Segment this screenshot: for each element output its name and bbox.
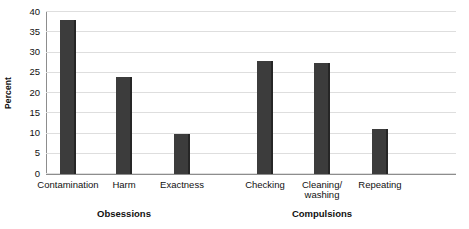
bar	[314, 63, 330, 174]
bar	[60, 20, 76, 174]
y-tick-label-30: 30	[16, 47, 40, 57]
gridlines	[46, 12, 456, 174]
bar	[174, 134, 190, 175]
y-tick-label-25: 25	[16, 67, 40, 77]
gridline-40	[46, 11, 456, 12]
bar	[372, 129, 388, 174]
bar	[257, 61, 273, 174]
plot-area: 0510152025303540	[46, 12, 456, 174]
gridline-35	[46, 31, 456, 32]
bar-chart-figure: Percent 0510152025303540 ContaminationHa…	[0, 0, 469, 229]
y-tick-label-35: 35	[16, 27, 40, 37]
bar	[116, 77, 132, 174]
category-label: Repeating	[335, 180, 425, 190]
gridline-25	[46, 72, 456, 73]
y-tick-label-20: 20	[16, 88, 40, 98]
gridline-5	[46, 153, 456, 154]
y-tick-label-10: 10	[16, 128, 40, 138]
gridline-0	[46, 173, 456, 174]
y-tick-label-40: 40	[16, 7, 40, 17]
y-axis-title: Percent	[3, 63, 13, 123]
gridline-20	[46, 92, 456, 93]
group-label: Compulsions	[262, 208, 382, 219]
y-tick-label-0: 0	[16, 169, 40, 179]
gridline-10	[46, 133, 456, 134]
category-label: Exactness	[137, 180, 227, 190]
x-axis-line	[46, 174, 456, 175]
group-label: Obsessions	[64, 208, 184, 219]
gridline-30	[46, 52, 456, 53]
y-tick-label-5: 5	[16, 148, 40, 158]
y-tick-label-15: 15	[16, 108, 40, 118]
gridline-15	[46, 112, 456, 113]
